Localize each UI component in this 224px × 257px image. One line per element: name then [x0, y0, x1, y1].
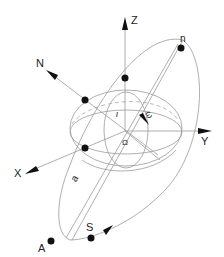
inclination-label: ι [116, 109, 118, 119]
periapsis-label: n [180, 33, 186, 44]
n-arrow-icon [46, 70, 58, 80]
z-arrow-icon [122, 17, 128, 30]
z-intersect-point [122, 75, 129, 82]
orbit-direction-arrow-icon [103, 225, 113, 235]
satellite-point [88, 235, 95, 242]
apoapsis-label: A [38, 242, 46, 254]
z-label: Z [131, 14, 138, 26]
orbital-elements-diagram: Z Y X N n A S ι ω Ω a [0, 0, 224, 257]
ascending-node-label: Ω [122, 138, 128, 147]
satellite-label: S [86, 221, 93, 233]
periapsis-point [178, 45, 185, 52]
y-arrow-icon [198, 128, 212, 134]
semi-major-axis-label: a [68, 173, 81, 184]
n-label: N [36, 57, 44, 69]
x-arrow-icon [25, 166, 39, 174]
n-intersect-point [82, 97, 89, 104]
x-label: X [14, 167, 22, 179]
y-label: Y [201, 135, 209, 147]
x-intersect-point [82, 145, 89, 152]
apoapsis-point [48, 238, 55, 245]
